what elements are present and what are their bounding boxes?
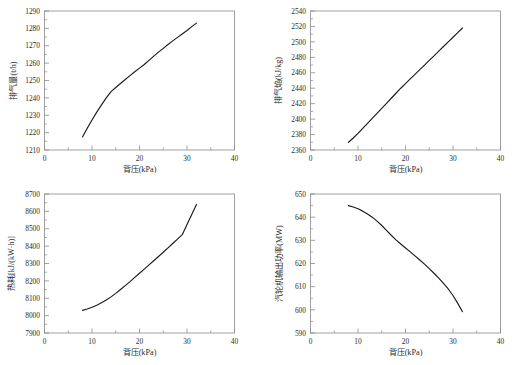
chart-svg-exhaust-flow: 0102030401210122012301240125012601270128… xyxy=(0,0,266,183)
svg-text:30: 30 xyxy=(449,336,457,345)
svg-text:2540: 2540 xyxy=(291,7,306,16)
svg-text:8000: 8000 xyxy=(25,311,40,320)
svg-text:0: 0 xyxy=(43,336,47,345)
svg-text:20: 20 xyxy=(401,154,409,163)
svg-text:40: 40 xyxy=(231,336,239,345)
svg-text:2520: 2520 xyxy=(291,22,306,31)
svg-text:1290: 1290 xyxy=(25,7,40,16)
chart-svg-heat-rate: 0102030407900800081008200830084008500860… xyxy=(0,183,266,365)
svg-text:10: 10 xyxy=(354,154,362,163)
svg-text:650: 650 xyxy=(294,189,305,198)
figure-caption-strip xyxy=(0,355,531,365)
svg-text:8600: 8600 xyxy=(25,207,40,216)
svg-text:0: 0 xyxy=(43,154,47,163)
svg-text:排气量(t/h): 排气量(t/h) xyxy=(8,61,18,99)
figure-panel-grid: 0102030401210122012301240125012601270128… xyxy=(0,0,531,365)
svg-text:40: 40 xyxy=(496,336,504,345)
chart-panel-heat-rate: 0102030407900800081008200830084008500860… xyxy=(0,183,266,365)
svg-text:20: 20 xyxy=(136,154,144,163)
svg-text:1250: 1250 xyxy=(25,76,40,85)
svg-text:590: 590 xyxy=(294,328,305,337)
svg-text:620: 620 xyxy=(294,259,305,268)
svg-text:2460: 2460 xyxy=(291,68,306,77)
svg-text:2380: 2380 xyxy=(291,130,306,139)
svg-text:8500: 8500 xyxy=(25,224,40,233)
svg-text:30: 30 xyxy=(183,336,191,345)
svg-text:20: 20 xyxy=(136,336,144,345)
svg-text:30: 30 xyxy=(449,154,457,163)
svg-text:8300: 8300 xyxy=(25,259,40,268)
svg-text:热耗[kJ/(kW·h)]: 热耗[kJ/(kW·h)] xyxy=(6,235,16,290)
svg-text:2400: 2400 xyxy=(291,115,306,124)
svg-text:汽轮机输出功率(MW): 汽轮机输出功率(MW) xyxy=(274,225,284,302)
svg-text:1270: 1270 xyxy=(25,41,40,50)
svg-text:20: 20 xyxy=(401,336,409,345)
svg-text:8400: 8400 xyxy=(25,241,40,250)
svg-text:2480: 2480 xyxy=(291,53,306,62)
svg-text:1280: 1280 xyxy=(25,24,40,33)
svg-text:1220: 1220 xyxy=(25,128,40,137)
svg-text:40: 40 xyxy=(496,154,504,163)
svg-text:1210: 1210 xyxy=(25,146,40,155)
svg-text:8700: 8700 xyxy=(25,189,40,198)
chart-panel-exhaust-flow: 0102030401210122012301240125012601270128… xyxy=(0,0,266,183)
chart-panel-turbine-power: 010203040590600610620630640650背压(kPa)汽轮机… xyxy=(266,183,531,365)
chart-panel-exhaust-enthalpy: 0102030402360238024002420244024602480250… xyxy=(266,0,531,183)
svg-text:30: 30 xyxy=(183,154,191,163)
svg-text:600: 600 xyxy=(294,305,305,314)
svg-text:1260: 1260 xyxy=(25,59,40,68)
svg-text:1230: 1230 xyxy=(25,111,40,120)
svg-text:10: 10 xyxy=(354,336,362,345)
svg-text:背压(kPa): 背压(kPa) xyxy=(123,164,157,174)
svg-text:2420: 2420 xyxy=(291,99,306,108)
chart-svg-turbine-power: 010203040590600610620630640650背压(kPa)汽轮机… xyxy=(266,183,531,365)
svg-text:630: 630 xyxy=(294,236,305,245)
svg-text:8100: 8100 xyxy=(25,293,40,302)
svg-text:10: 10 xyxy=(88,336,96,345)
svg-text:8200: 8200 xyxy=(25,276,40,285)
svg-text:2500: 2500 xyxy=(291,38,306,47)
svg-text:10: 10 xyxy=(88,154,96,163)
svg-text:2360: 2360 xyxy=(291,146,306,155)
svg-text:7900: 7900 xyxy=(25,328,40,337)
svg-text:40: 40 xyxy=(231,154,239,163)
svg-text:1240: 1240 xyxy=(25,94,40,103)
svg-text:0: 0 xyxy=(308,336,312,345)
svg-text:2440: 2440 xyxy=(291,84,306,93)
svg-text:排气焔(kJ/kg): 排气焔(kJ/kg) xyxy=(273,57,283,104)
chart-svg-exhaust-enthalpy: 0102030402360238024002420244024602480250… xyxy=(266,0,531,183)
svg-text:610: 610 xyxy=(294,282,305,291)
svg-text:640: 640 xyxy=(294,212,305,221)
svg-text:背压(kPa): 背压(kPa) xyxy=(388,164,422,174)
svg-text:0: 0 xyxy=(308,154,312,163)
